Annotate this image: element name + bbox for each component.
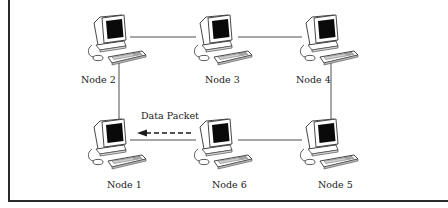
desktop-computer-icon-node1 (88, 119, 146, 169)
data-packet-arrow (137, 130, 194, 137)
node-3-label: Node 3 (205, 74, 240, 85)
desktop-computer-icon-node2 (88, 15, 146, 65)
node-6-label: Node 6 (212, 179, 247, 190)
desktop-computer-icon-node3 (194, 15, 252, 65)
node-5-label: Node 5 (318, 179, 353, 190)
node-1-label: Node 1 (107, 179, 142, 190)
desktop-computer-icon-node4 (300, 15, 358, 65)
node-2-label: Node 2 (81, 74, 116, 85)
node-4-label: Node 4 (296, 74, 331, 85)
desktop-computer-icon-node5 (300, 119, 358, 169)
data-packet-label: Data Packet (141, 110, 199, 121)
desktop-computer-icon-node6 (194, 119, 252, 169)
